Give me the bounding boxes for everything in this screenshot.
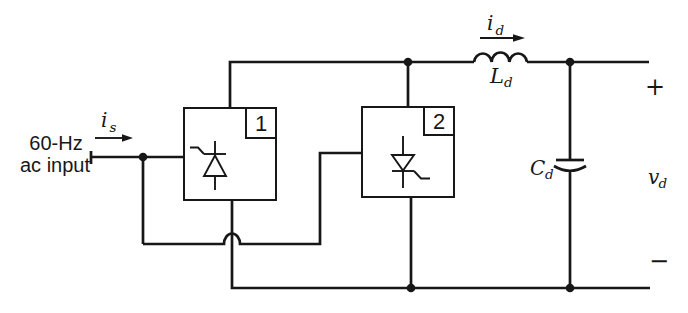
circuit-diagram: 60-Hz ac input i s i d L d C d v d + − 1…	[0, 0, 688, 313]
arrow-head-icon	[122, 134, 133, 142]
polarity-plus-sign: +	[645, 73, 665, 101]
text-labels: 60-Hz ac input i s i d L d C d v d + − 1…	[20, 11, 669, 275]
connection-dot	[566, 58, 575, 67]
connection-dot	[404, 58, 413, 67]
dc-current-label: i	[487, 11, 493, 35]
polarity-minus-sign: −	[649, 247, 669, 275]
wire-box1-top-riser	[230, 62, 474, 108]
connection-dot	[407, 284, 416, 293]
capacitor-label: C	[530, 156, 545, 180]
inductor-label: L	[489, 64, 504, 88]
source-label-line2: ac input	[20, 154, 90, 176]
source-label-line1: 60-Hz	[29, 132, 82, 154]
inductor-coil-icon	[474, 52, 527, 62]
source-current-subscript: s	[110, 119, 117, 135]
source-current-label: i	[101, 108, 107, 132]
converter-2-number: 2	[433, 109, 445, 134]
dc-current-subscript: d	[496, 22, 505, 38]
capacitor-subscript: d	[545, 166, 554, 182]
capacitor-plates-icon	[554, 160, 586, 171]
capacitor-plate-bottom	[554, 166, 586, 171]
connection-dot	[566, 284, 575, 293]
arrow-head-icon	[513, 34, 525, 42]
inductor-subscript: d	[504, 74, 513, 90]
output-voltage-subscript: d	[659, 175, 668, 191]
circuit-figure: 60-Hz ac input i s i d L d C d v d + − 1…	[0, 0, 688, 313]
converter-1-number: 1	[255, 111, 267, 136]
source-current-arrow	[95, 134, 133, 142]
connection-dot	[139, 153, 148, 162]
